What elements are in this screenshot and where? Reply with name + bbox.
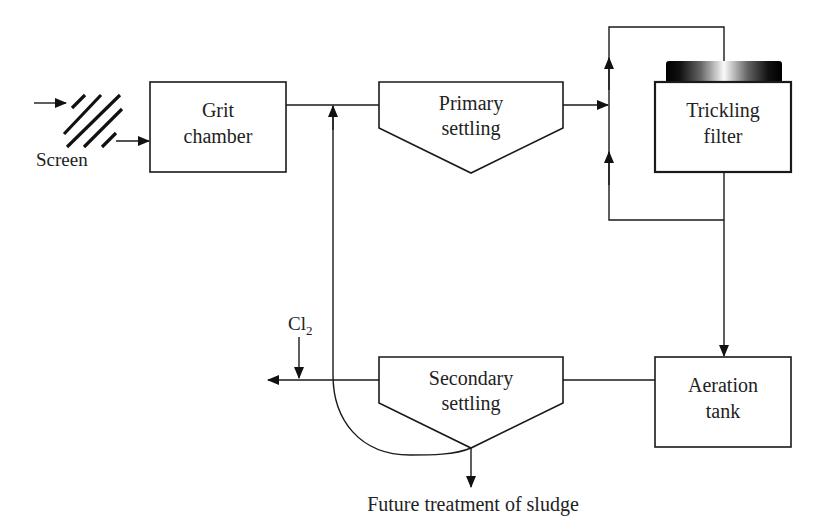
- screen-icon: [64, 95, 122, 147]
- trickling-filter-label-line2: filter: [704, 125, 743, 147]
- secondary-settling-label-line2: settling: [442, 392, 501, 415]
- primary-settling-node: Primary settling: [379, 82, 563, 173]
- filter-distributor-icon: [666, 61, 782, 83]
- sludge-output-label: Future treatment of sludge: [367, 493, 579, 516]
- primary-settling-label-line1: Primary: [439, 92, 503, 115]
- primary-settling-label-line2: settling: [442, 117, 501, 140]
- grit-chamber-label-line1: Grit: [202, 99, 235, 121]
- chlorine-label: Cl2: [288, 313, 312, 338]
- grit-chamber-node: Grit chamber: [150, 82, 286, 172]
- aeration-tank-label-line2: tank: [706, 400, 740, 422]
- screen-label: Screen: [36, 149, 88, 170]
- trickling-filter-label-line1: Trickling: [686, 99, 760, 122]
- secondary-settling-node: Secondary settling: [379, 357, 563, 448]
- aeration-tank-label-line1: Aeration: [688, 374, 758, 396]
- grit-chamber-label-line2: chamber: [184, 125, 253, 147]
- trickling-filter-node: Trickling filter: [655, 61, 791, 172]
- process-flow-diagram: Screen Grit chamber Primary settling Tri…: [0, 0, 822, 531]
- aeration-tank-node: Aeration tank: [655, 357, 791, 447]
- secondary-settling-label-line1: Secondary: [429, 367, 513, 390]
